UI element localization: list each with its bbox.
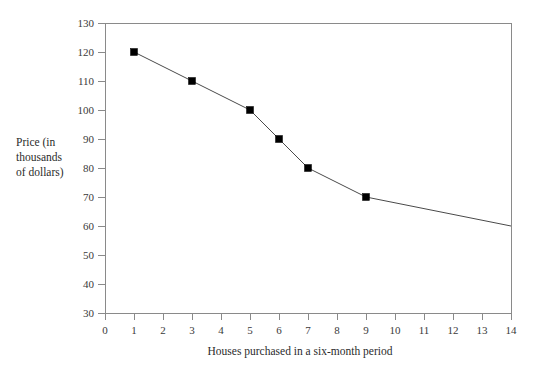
y-axis-title-line-1: Price (in [16,136,56,149]
x-tick-label-12: 12 [448,324,459,336]
y-axis-title-line-3: of dollars) [16,166,64,179]
chart-page: 30405060708090100110120130 0123456789101… [0,0,534,376]
y-tick-label-40: 40 [83,278,95,290]
x-tick-label-11: 11 [419,324,430,336]
y-axis-tick-labels: 30405060708090100110120130 [78,17,95,319]
y-axis-ticks [98,23,105,313]
data-point-markers [131,49,370,201]
y-tick-label-80: 80 [83,162,95,174]
y-tick-label-100: 100 [78,104,95,116]
demand-curve-chart: 30405060708090100110120130 0123456789101… [0,0,534,376]
data-point-6-90 [276,136,283,143]
data-point-9-70 [363,194,370,201]
y-tick-label-120: 120 [78,46,95,58]
x-axis-ticks [105,313,511,320]
x-tick-label-7: 7 [305,324,311,336]
x-tick-label-14: 14 [506,324,518,336]
data-point-1-120 [131,49,138,56]
x-tick-label-4: 4 [218,324,224,336]
x-tick-label-6: 6 [276,324,282,336]
x-tick-label-13: 13 [477,324,489,336]
y-axis-title: Price (inthousandsof dollars) [16,136,64,179]
y-tick-label-110: 110 [78,75,95,87]
data-point-5-100 [247,107,254,114]
data-series-price [131,49,512,227]
x-tick-label-5: 5 [247,324,253,336]
x-tick-label-2: 2 [160,324,166,336]
x-axis-tick-labels: 01234567891011121314 [102,324,517,336]
y-tick-label-130: 130 [78,17,95,29]
y-tick-label-90: 90 [83,133,95,145]
x-tick-label-0: 0 [102,324,108,336]
x-tick-label-3: 3 [189,324,195,336]
y-tick-label-60: 60 [83,220,95,232]
x-tick-label-1: 1 [131,324,137,336]
y-tick-label-50: 50 [83,249,95,261]
x-axis-title: Houses purchased in a six-month period [208,345,393,358]
x-tick-label-9: 9 [363,324,369,336]
x-tick-label-8: 8 [334,324,340,336]
y-tick-label-70: 70 [83,191,95,203]
x-tick-label-10: 10 [390,324,402,336]
data-point-3-110 [189,78,196,85]
data-point-7-80 [305,165,312,172]
y-axis-title-line-2: thousands [16,151,63,163]
y-tick-label-30: 30 [83,307,95,319]
